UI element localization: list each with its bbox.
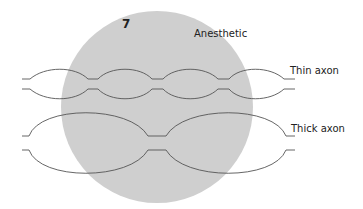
thick-axon-label: Thick axon — [291, 123, 345, 134]
thin-axon-label: Thin axon — [290, 65, 339, 76]
diagram-canvas — [0, 0, 363, 209]
figure-number: 7 — [122, 17, 130, 31]
anesthetic-label: Anesthetic — [194, 28, 247, 39]
figure: 7 Anesthetic Thin axon Thick axon — [0, 0, 363, 209]
anesthetic-region — [61, 11, 253, 203]
